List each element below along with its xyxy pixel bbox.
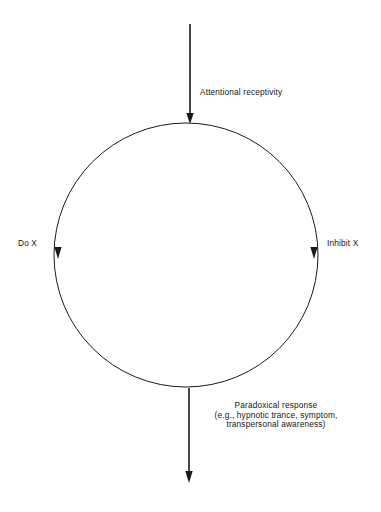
output-arrow xyxy=(185,388,192,483)
label-attentional-receptivity: Attentional receptivity xyxy=(200,88,282,98)
label-paradoxical-response: Paradoxical response (e.g., hypnotic tra… xyxy=(201,401,351,430)
label-do-x: Do X xyxy=(18,239,37,249)
input-arrow-head xyxy=(186,113,193,124)
cycle-circle xyxy=(54,123,318,387)
label-inhibit-x: Inhibit X xyxy=(327,239,358,249)
left-flow-arrowhead xyxy=(54,247,61,259)
paradoxical-line-3: transpersonal awareness) xyxy=(201,420,351,430)
diagram-canvas: Attentional receptivity Do X Inhibit X P… xyxy=(0,0,381,512)
output-arrow-head xyxy=(185,471,192,483)
cycle-diagram-graphic xyxy=(0,0,381,512)
input-arrow xyxy=(186,24,193,124)
right-flow-arrowhead xyxy=(310,247,317,259)
